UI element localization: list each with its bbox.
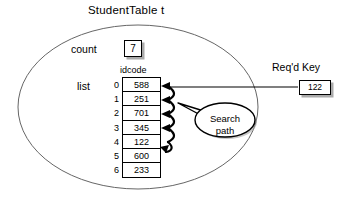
table-row: 1 251 (123, 92, 160, 106)
row-value: 122 (123, 136, 160, 148)
search-path-annotation: Search path (199, 113, 251, 136)
row-value: 701 (123, 107, 160, 119)
row-index: 2 (108, 107, 119, 119)
search-path-arrows (166, 86, 174, 152)
row-index: 3 (108, 122, 119, 134)
table-row: 6 233 (123, 163, 160, 177)
table-row: 3 345 (123, 121, 160, 135)
required-key-label: Req'd Key (272, 62, 320, 73)
table-row: 2 701 (123, 106, 160, 120)
row-value: 251 (123, 93, 160, 105)
search-path-line1: Search (199, 113, 251, 125)
row-index: 6 (108, 164, 119, 176)
list-label: list (77, 81, 90, 92)
search-path-line2: path (199, 125, 251, 137)
row-value: 588 (123, 79, 160, 91)
row-index: 1 (108, 93, 119, 105)
row-value: 600 (123, 150, 160, 162)
table-row: 0 588 (123, 78, 160, 92)
row-index: 0 (108, 79, 119, 91)
diagram-title: StudentTable t (88, 5, 164, 17)
diagram-canvas: StudentTable t count 7 list idcode 0 588… (0, 0, 338, 198)
required-key-value-box: 122 (299, 80, 331, 95)
count-label: count (71, 44, 97, 55)
table-row: 5 600 (123, 149, 160, 163)
row-value: 345 (123, 122, 160, 134)
table-row: 4 122 (123, 135, 160, 149)
row-index: 4 (108, 136, 119, 148)
count-value-box: 7 (124, 40, 142, 57)
idcode-column-header: idcode (120, 66, 147, 75)
row-value: 233 (123, 164, 160, 176)
row-index: 5 (108, 150, 119, 162)
diagram-vector-layer (0, 0, 338, 198)
idcode-list-table: 0 588 1 251 2 701 3 345 4 122 5 600 6 23… (122, 77, 161, 178)
